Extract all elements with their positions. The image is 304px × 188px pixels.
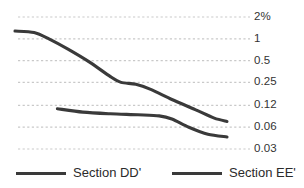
y-tick-label-4: 0.12 xyxy=(254,99,277,110)
y-tick-label-5: 0.06 xyxy=(254,121,277,132)
series-lines xyxy=(15,31,227,137)
y-tick-label-0: 2% xyxy=(254,11,271,22)
legend-line-swatch-icon xyxy=(16,172,66,175)
chart-legend: Section DD' Section EE' xyxy=(0,160,304,188)
y-axis-labels: 2% 1 0.5 0.25 0.12 0.06 0.03 xyxy=(254,0,304,160)
series-line-0 xyxy=(15,31,227,121)
y-tick-label-2: 0.5 xyxy=(254,55,270,66)
legend-line-swatch-icon xyxy=(172,172,222,175)
legend-label-0: Section DD' xyxy=(73,165,141,180)
line-chart: 2% 1 0.5 0.25 0.12 0.06 0.03 Section DD'… xyxy=(0,0,304,188)
y-tick-label-6: 0.03 xyxy=(254,143,277,154)
y-tick-label-3: 0.25 xyxy=(254,76,277,87)
legend-label-1: Section EE' xyxy=(229,165,296,180)
y-tick-label-1: 1 xyxy=(254,33,261,44)
